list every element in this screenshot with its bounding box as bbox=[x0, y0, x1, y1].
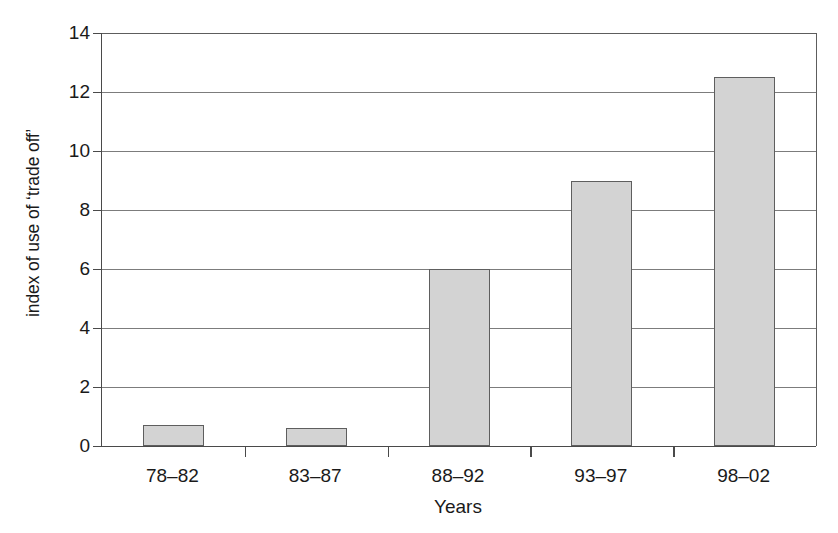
y-axis-tick-mark bbox=[93, 210, 102, 211]
y-axis-tick-label: 14 bbox=[50, 23, 90, 42]
bar bbox=[143, 425, 204, 446]
plot-right-border bbox=[816, 33, 817, 446]
y-axis-tick-mark bbox=[93, 151, 102, 152]
y-axis-tick-label: 8 bbox=[50, 200, 90, 219]
x-axis-tick-label: 98–02 bbox=[672, 466, 815, 485]
x-axis-tick-label: 88–92 bbox=[387, 466, 530, 485]
plot-area bbox=[101, 33, 816, 447]
bar bbox=[286, 428, 347, 446]
bar bbox=[429, 269, 490, 446]
bar-chart-figure: index of use of ‘trade off’ 02468101214 … bbox=[0, 0, 838, 533]
y-axis-tick-mark bbox=[93, 387, 102, 388]
gridline bbox=[102, 151, 816, 152]
y-axis-tick-label: 12 bbox=[50, 82, 90, 101]
y-axis-tick-mark bbox=[93, 33, 102, 34]
y-axis-title: index of use of ‘trade off’ bbox=[22, 0, 44, 446]
y-axis-tick-labels: 02468101214 bbox=[44, 0, 90, 533]
y-axis-tick-mark bbox=[93, 92, 102, 93]
y-axis-tick-label: 6 bbox=[50, 259, 90, 278]
gridline bbox=[102, 92, 816, 93]
x-axis-title: Years bbox=[101, 497, 815, 516]
bar bbox=[714, 77, 775, 446]
y-axis-tick-mark bbox=[93, 446, 102, 447]
y-axis-tick-label: 2 bbox=[50, 377, 90, 396]
x-axis-tick-label: 83–87 bbox=[244, 466, 387, 485]
x-axis-tick-mark bbox=[388, 446, 389, 457]
y-axis-tick-label: 0 bbox=[50, 436, 90, 455]
y-axis-tick-mark bbox=[93, 269, 102, 270]
x-axis-tick-mark bbox=[530, 446, 531, 457]
y-axis-tick-mark bbox=[93, 328, 102, 329]
x-axis-tick-label: 78–82 bbox=[101, 466, 244, 485]
y-axis-tick-label: 4 bbox=[50, 318, 90, 337]
y-axis-tick-label: 10 bbox=[50, 141, 90, 160]
x-axis-tick-mark bbox=[673, 446, 674, 457]
plot-top-border bbox=[102, 33, 816, 34]
bar bbox=[571, 181, 632, 447]
x-axis-tick-label: 93–97 bbox=[529, 466, 672, 485]
gridline bbox=[102, 210, 816, 211]
x-axis-tick-mark bbox=[245, 446, 246, 457]
